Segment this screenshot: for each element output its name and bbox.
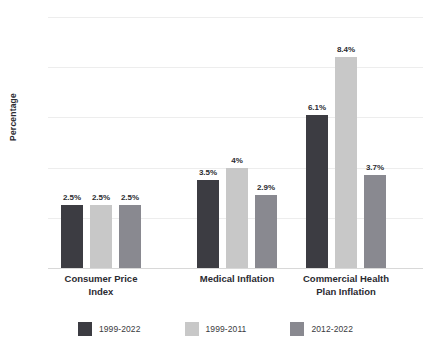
bar-value-label: 8.4% <box>337 45 355 54</box>
bar-group: 6.1%8.4%3.7% <box>306 17 386 268</box>
bar-value-label: 6.1% <box>308 103 326 112</box>
bar-value-label: 2.5% <box>63 193 81 202</box>
bar[interactable]: 4% <box>226 168 248 268</box>
bar-value-label: 4% <box>231 156 243 165</box>
bar[interactable]: 2.5% <box>119 205 141 268</box>
x-axis-category-label: Commercial Health Plan Inflation <box>284 273 408 298</box>
bar-value-label: 3.7% <box>366 163 384 172</box>
bar-chart: Percentage 0%2%4%6%8%10% 2.5%2.5%2.5%3.5… <box>0 0 431 355</box>
plot-area: 0%2%4%6%8%10% 2.5%2.5%2.5%3.5%4%2.9%6.1%… <box>48 17 423 268</box>
bar[interactable]: 2.5% <box>90 205 112 268</box>
legend-item[interactable]: 1999-2011 <box>185 322 247 336</box>
y-axis-title: Percentage <box>8 82 18 152</box>
legend-label: 1999-2022 <box>99 324 141 334</box>
legend-swatch <box>78 322 92 336</box>
legend-swatch <box>185 322 199 336</box>
bar[interactable]: 2.9% <box>255 195 277 268</box>
legend-swatch <box>290 322 304 336</box>
legend-item[interactable]: 1999-2022 <box>78 322 141 336</box>
bar[interactable]: 3.7% <box>364 175 386 268</box>
legend-label: 2012-2022 <box>311 324 353 334</box>
legend-item[interactable]: 2012-2022 <box>290 322 353 336</box>
bar[interactable]: 3.5% <box>197 180 219 268</box>
bar[interactable]: 8.4% <box>335 57 357 268</box>
bar-value-label: 2.5% <box>121 193 139 202</box>
bar-group: 2.5%2.5%2.5% <box>61 17 141 268</box>
bar-value-label: 2.9% <box>257 183 275 192</box>
legend: 1999-20221999-20112012-2022 <box>0 322 431 336</box>
x-axis-category-label: Medical Inflation <box>175 273 299 286</box>
legend-label: 1999-2011 <box>206 324 247 334</box>
bar-value-label: 2.5% <box>92 193 110 202</box>
bar[interactable]: 6.1% <box>306 115 328 268</box>
x-axis-category-label: Consumer Price Index <box>39 273 163 298</box>
bar-value-label: 3.5% <box>199 168 217 177</box>
bar-group: 3.5%4%2.9% <box>197 17 277 268</box>
gridline <box>48 268 423 269</box>
bar[interactable]: 2.5% <box>61 205 83 268</box>
